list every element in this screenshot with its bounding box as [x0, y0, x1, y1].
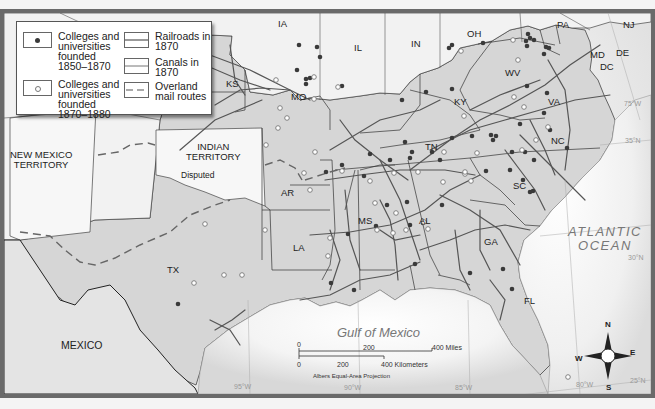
- projection-label: Albers Equal-Area Projection: [313, 373, 390, 379]
- label-sc: SC: [513, 181, 526, 191]
- label-dc: DC: [600, 62, 614, 72]
- label-wv: WV: [505, 68, 520, 78]
- label-atlantic-ocean: ATLANTIC OCEAN: [568, 225, 642, 253]
- legend-label: Canals in 1870: [155, 57, 199, 77]
- grid-label-95w: 95°W: [234, 383, 251, 390]
- grid-label-85w: 85°W: [455, 384, 472, 391]
- legend-swatch: [124, 58, 149, 74]
- label-ar: AR: [281, 188, 294, 198]
- legend-item-colleges-1850-1870: Colleges and universities founded 1850–1…: [23, 31, 119, 71]
- label-in: IN: [411, 39, 421, 49]
- label-nj: NJ: [623, 20, 635, 30]
- label-nc: NC: [551, 136, 565, 146]
- legend-item-colleges-1870-1880: Colleges and universities founded 1870–1…: [23, 79, 119, 119]
- scale-km-0: 0: [297, 361, 301, 368]
- compass-e: E: [630, 348, 635, 357]
- legend-label: Overland mail routes: [155, 81, 206, 101]
- compass-w: W: [575, 354, 583, 363]
- legend-label: Railroads in 1870: [155, 31, 210, 51]
- map-frame: Colleges and universities founded 1850–1…: [0, 0, 655, 409]
- label-ky: KY: [454, 97, 467, 107]
- label-ga: GA: [484, 237, 498, 247]
- legend-label: Colleges and universities founded 1850–1…: [58, 31, 119, 71]
- open-dot-icon: [35, 86, 41, 92]
- grid-label-90w: 90°W: [344, 384, 361, 391]
- label-al: AL: [419, 216, 431, 226]
- label-disputed: Disputed: [181, 170, 215, 180]
- label-tx: TX: [167, 265, 179, 275]
- label-fl: FL: [524, 296, 535, 306]
- compass-rose: N S E W: [580, 328, 636, 384]
- label-ks: KS: [226, 79, 239, 89]
- canal-line-icon: [125, 59, 148, 73]
- label-indian-territory: INDIAN TERRITORY: [186, 142, 241, 162]
- label-tn: TN: [425, 142, 438, 152]
- railroad-line-icon: [125, 33, 148, 47]
- grid-label-30n: 30°N: [628, 254, 644, 261]
- legend-item-canals: Canals in 1870: [124, 57, 199, 77]
- legend-item-railroads: Railroads in 1870: [124, 31, 210, 51]
- label-ms: MS: [358, 216, 372, 226]
- label-la: LA: [293, 243, 305, 253]
- scale-miles-0: 0: [297, 341, 301, 348]
- grid-label-75w: 75°W: [624, 100, 641, 107]
- scale-miles-400: 400 Miles: [432, 344, 462, 351]
- label-gulf-of-mexico: Gulf of Mexico: [337, 325, 420, 340]
- legend-swatch: [124, 82, 149, 98]
- compass-n: N: [605, 320, 611, 329]
- label-de: DE: [616, 48, 629, 58]
- legend-swatch: [23, 32, 52, 48]
- scale-miles-200: 200: [363, 344, 375, 351]
- label-mo: MO: [291, 92, 306, 102]
- legend-swatch: [23, 80, 52, 96]
- grid-label-35n: 35°N: [625, 137, 641, 144]
- label-va: VA: [548, 97, 560, 107]
- compass-icon: [580, 328, 636, 384]
- label-md: MD: [590, 50, 605, 60]
- label-oh: OH: [467, 29, 481, 39]
- legend-swatch: [124, 32, 149, 48]
- legend-label: Colleges and universities founded 1870–1…: [58, 79, 119, 119]
- label-il: IL: [354, 43, 362, 53]
- compass-s: S: [606, 383, 611, 392]
- scale-km-400: 400 Kilometers: [381, 361, 428, 368]
- label-pa: PA: [557, 20, 569, 30]
- filled-dot-icon: [35, 38, 40, 43]
- map-legend: Colleges and universities founded 1850–1…: [16, 21, 212, 115]
- label-new-mexico-territory: NEW MEXICO TERRITORY: [10, 150, 72, 170]
- label-ia: IA: [278, 19, 287, 29]
- new-mexico-territory: [10, 108, 96, 240]
- legend-item-mail-routes: Overland mail routes: [124, 81, 206, 101]
- label-mexico: MEXICO: [61, 340, 102, 350]
- scale-km-200: 200: [337, 361, 349, 368]
- dashed-line-icon: [125, 83, 148, 97]
